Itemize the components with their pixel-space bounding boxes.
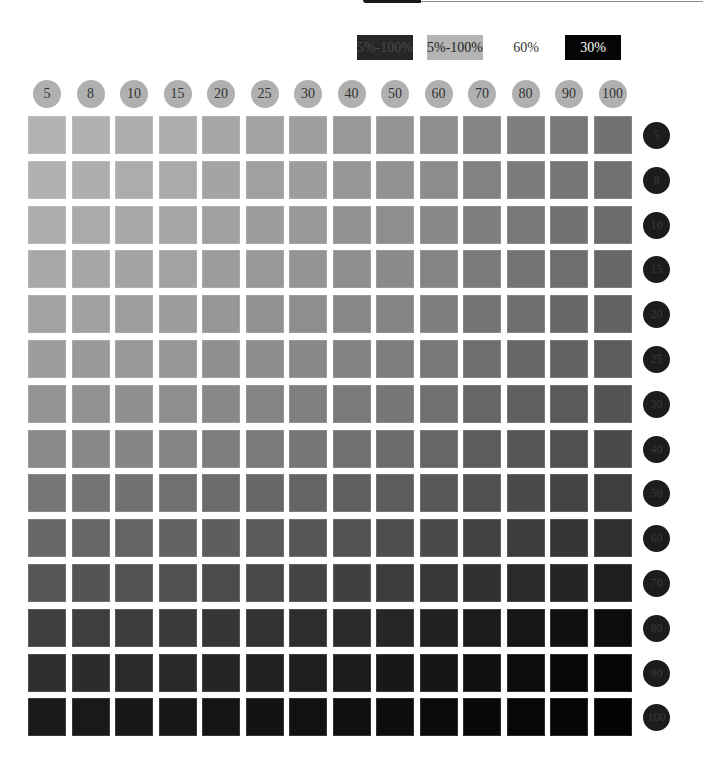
grid-cell <box>550 385 588 423</box>
grid-cell <box>594 161 632 199</box>
grid-cell <box>594 564 632 602</box>
grid-cell <box>289 385 327 423</box>
row-header-circle: 100 <box>643 704 670 731</box>
grid-cell <box>202 654 240 692</box>
grid-cell <box>463 430 501 468</box>
grid-cell <box>333 609 371 647</box>
row-header-circle: 5 <box>643 122 670 149</box>
grid-cell <box>246 340 284 378</box>
grid-cell <box>72 250 110 288</box>
grid-cell <box>376 295 414 333</box>
column-header-circle: 70 <box>468 80 496 108</box>
grid-cell <box>420 206 458 244</box>
grid-cell <box>507 206 545 244</box>
grid-cell <box>159 430 197 468</box>
grid-cell <box>550 430 588 468</box>
grid-cell <box>289 519 327 557</box>
grid-cell <box>594 116 632 154</box>
grid-cell <box>550 654 588 692</box>
grid-cell <box>376 340 414 378</box>
grid-cell <box>463 474 501 512</box>
column-header-circle: 50 <box>381 80 409 108</box>
grid-cell <box>463 609 501 647</box>
grid-cell <box>159 385 197 423</box>
grid-cell <box>376 564 414 602</box>
grid-cell <box>159 609 197 647</box>
column-header-circle: 25 <box>251 80 279 108</box>
grid-cell <box>115 698 153 736</box>
grid-cell <box>202 430 240 468</box>
grid-cell <box>115 385 153 423</box>
grid-cell <box>72 564 110 602</box>
grid-cell <box>202 161 240 199</box>
grid-cell <box>594 698 632 736</box>
grid-cell <box>333 564 371 602</box>
grid-cell <box>202 385 240 423</box>
grid-cell <box>507 161 545 199</box>
grid-cell <box>159 206 197 244</box>
row-header-circle: 40 <box>643 436 670 463</box>
grid-cell <box>376 161 414 199</box>
row-header-circle: 70 <box>643 570 670 597</box>
grid-cell <box>246 519 284 557</box>
grid-cell <box>420 698 458 736</box>
grid-cell <box>463 295 501 333</box>
grid-cell <box>159 564 197 602</box>
grid-cell <box>376 116 414 154</box>
grid-cell <box>376 206 414 244</box>
grid-cell <box>507 250 545 288</box>
grid-cell <box>289 161 327 199</box>
grid-cell <box>594 519 632 557</box>
row-header-circle: 25 <box>643 346 670 373</box>
grid-cell <box>28 340 66 378</box>
grid-cell <box>333 698 371 736</box>
grid-cell <box>28 519 66 557</box>
row-header-circle: 15 <box>643 256 670 283</box>
grid-cell <box>594 385 632 423</box>
grid-cell <box>202 250 240 288</box>
grid-cell <box>289 206 327 244</box>
grid-cell <box>463 385 501 423</box>
grid-cell <box>594 654 632 692</box>
grid-cell <box>376 430 414 468</box>
grid-cell <box>376 698 414 736</box>
grid-cell <box>246 474 284 512</box>
grid-cell <box>159 161 197 199</box>
grid-cell <box>420 250 458 288</box>
grid-cell <box>202 609 240 647</box>
grid-cell <box>333 340 371 378</box>
grid-cell <box>550 295 588 333</box>
grid-cell <box>463 564 501 602</box>
grid-cell <box>159 698 197 736</box>
grid-cell <box>507 340 545 378</box>
grid-cell <box>333 474 371 512</box>
legend-item: 5%-100% <box>357 35 413 60</box>
grid-cell <box>28 430 66 468</box>
grid-cell <box>202 206 240 244</box>
grid-cell <box>159 654 197 692</box>
column-header-circle: 60 <box>425 80 453 108</box>
grid-cell <box>289 250 327 288</box>
grid-cell <box>376 609 414 647</box>
grid-cell <box>507 474 545 512</box>
grid-cell <box>333 385 371 423</box>
grid-cell <box>594 609 632 647</box>
grid-cell <box>72 474 110 512</box>
grid-cell <box>72 116 110 154</box>
grid-cell <box>72 519 110 557</box>
grid-cell <box>202 295 240 333</box>
grid-cell <box>159 250 197 288</box>
grid-cell <box>28 609 66 647</box>
column-header-circle: 80 <box>512 80 540 108</box>
row-header-circle: 20 <box>643 301 670 328</box>
grid-cell <box>463 519 501 557</box>
grid-cell <box>159 474 197 512</box>
column-header-circle: 10 <box>120 80 148 108</box>
column-header-circle: 20 <box>207 80 235 108</box>
grid-cell <box>28 206 66 244</box>
grid-cell <box>159 295 197 333</box>
top-bar-dark-segment <box>363 0 421 3</box>
legend-item: 60% <box>498 35 554 60</box>
grid-cell <box>333 654 371 692</box>
grid-cell <box>594 206 632 244</box>
